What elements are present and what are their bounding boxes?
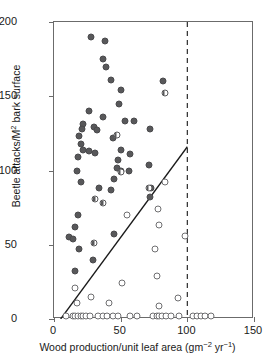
data-point-filled [72,268,79,275]
data-point-open [175,295,182,302]
y-axis-tick-label: 100 [0,164,17,176]
data-point-open [208,313,215,320]
data-point-open [155,206,162,213]
data-point-filled [117,146,124,153]
data-point-filled [100,56,107,63]
data-point-filled [147,194,154,201]
x-axis-tick-label: 150 [244,324,262,336]
plot-area [53,21,253,318]
data-point-filled [131,118,138,125]
data-layer [54,22,252,317]
data-point-open [133,313,140,320]
data-point-filled [85,108,92,115]
data-point-filled [117,87,124,94]
x-axis-tick [121,317,122,322]
y-axis-tick-label: 150 [0,89,17,101]
data-point-half-filled [113,131,120,138]
data-point-half-filled [117,168,124,175]
data-point-filled [147,125,154,132]
data-point-filled [77,179,84,186]
data-point-filled [75,212,82,219]
y-axis-tick [49,245,54,246]
data-point-open [176,313,183,320]
data-point-filled [88,33,95,40]
data-point-filled [111,176,118,183]
x-axis-tick-label: 50 [114,324,126,336]
data-point-open [87,313,94,320]
data-point-filled [125,167,132,174]
y-axis-tick-label: 0 [0,312,17,324]
x-axis-tick [254,317,255,322]
data-point-filled [103,63,110,70]
data-point-filled [108,186,115,193]
data-point-filled [76,246,83,253]
data-point-filled [121,118,128,125]
data-point-filled [160,78,167,85]
data-point-filled [116,100,123,107]
data-point-open [156,222,163,229]
data-point-filled [108,76,115,83]
data-point-open [119,280,126,287]
data-point-open [153,272,160,279]
x-axis-tick-label: 0 [50,324,56,336]
data-point-open [181,232,188,239]
data-point-half-filled [91,240,98,247]
data-point-filled [115,157,122,164]
data-point-open [124,212,131,219]
data-point-open [88,293,95,300]
data-point-open [73,299,80,306]
y-axis-tick [49,96,54,97]
data-point-filled [73,167,80,174]
data-point-open [152,246,159,253]
data-point-filled [96,185,103,192]
data-point-open [161,179,168,186]
data-point-filled [111,231,118,238]
data-point-filled [79,125,86,132]
data-point-filled [89,256,96,263]
data-point-filled [92,149,99,156]
data-point-open [72,284,79,291]
data-point-open [105,299,112,306]
x-axis-tick [54,317,55,322]
data-point-filled [100,114,107,121]
data-point-filled [72,223,79,230]
data-point-open [156,302,163,309]
data-point-filled [69,235,76,242]
data-point-filled [127,151,134,158]
data-point-half-filled [100,200,107,207]
y-axis-tick [49,171,54,172]
data-point-filled [101,38,108,45]
data-point-filled [145,161,152,168]
x-axis-title: Wood production/unit leaf area (gm−2 yr−… [0,341,275,353]
x-axis-tick [187,317,188,322]
y-axis-tick [49,22,54,23]
data-point-half-filled [161,90,168,97]
y-axis-tick-label: 200 [0,15,17,27]
y-axis-title: Beetle attacks/M2 bark surface [10,26,22,246]
data-point-filled [93,127,100,134]
data-point-half-filled [92,195,99,202]
data-point-half-filled [145,185,152,192]
data-point-open [168,313,175,320]
data-point-filled [75,154,82,161]
y-axis-tick-label: 50 [0,238,17,250]
scatter-plot-figure: Beetle attacks/M2 bark surface Wood prod… [0,0,275,363]
x-axis-tick-label: 100 [177,324,195,336]
data-point-filled [76,133,83,140]
